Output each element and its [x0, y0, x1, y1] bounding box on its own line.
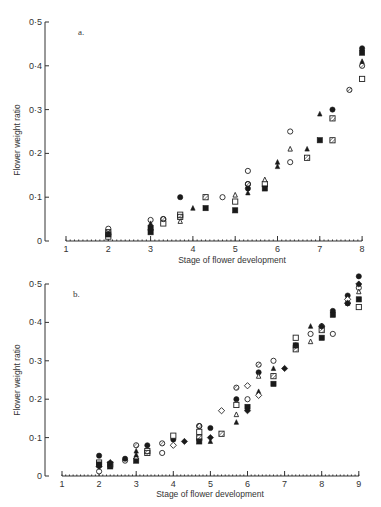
- hatched-square-marker: [106, 230, 111, 235]
- x-axis-label-b: Stage of flower development: [156, 489, 264, 499]
- filled-square-marker: [360, 50, 365, 55]
- filled-triangle-marker: [191, 206, 195, 211]
- y-tick-label: 0: [37, 236, 42, 246]
- filled-square-marker: [262, 186, 267, 191]
- filled-circle-marker: [356, 274, 361, 279]
- hatched-circle-marker: [256, 362, 261, 367]
- open-circle-marker: [288, 129, 293, 134]
- y-tick-label: 0·2: [29, 148, 42, 158]
- filled-square-marker: [203, 206, 208, 211]
- filled-square-marker: [317, 138, 322, 143]
- hatched-square-marker: [330, 116, 335, 121]
- chart-panel-a: 00·10·20·30·40·5 12345678 a. Flower weig…: [12, 17, 365, 265]
- open-square-marker: [360, 76, 365, 81]
- hatched-circle-marker: [347, 87, 352, 92]
- open-circle-marker: [245, 397, 250, 402]
- x-tick-label: 1: [59, 479, 64, 489]
- hatched-circle-marker: [134, 443, 139, 448]
- filled-square-marker: [233, 208, 238, 213]
- x-tick-label: 3: [134, 479, 139, 489]
- filled-triangle-marker: [308, 324, 312, 329]
- x-tick-label: 8: [360, 244, 365, 254]
- y-tick-label: 0·3: [29, 356, 42, 366]
- x-tick-label: 3: [148, 244, 153, 254]
- open-diamond-marker: [170, 442, 176, 448]
- filled-diamond-marker: [281, 365, 287, 371]
- filled-circle-marker: [97, 453, 102, 458]
- x-tick-label: 2: [97, 479, 102, 489]
- filled-circle-marker: [122, 456, 127, 461]
- data-points-b: [96, 274, 362, 474]
- filled-circle-marker: [145, 443, 150, 448]
- open-circle-marker: [160, 450, 165, 455]
- y-tick-label: 0·4: [29, 61, 42, 71]
- filled-triangle-marker: [271, 366, 275, 371]
- x-tick-label: 4: [190, 244, 195, 254]
- hatched-circle-marker: [319, 324, 324, 329]
- hatched-circle-marker: [197, 423, 202, 428]
- y-tick-label: 0·5: [29, 279, 42, 289]
- filled-triangle-marker: [275, 164, 279, 169]
- data-points-a: [106, 46, 365, 240]
- open-circle-marker: [245, 168, 250, 173]
- open-square-marker: [197, 429, 202, 434]
- x-tick-label: 9: [356, 479, 361, 489]
- x-tick-label: 2: [106, 244, 111, 254]
- x-tick-label: 8: [319, 479, 324, 489]
- hatched-square-marker: [219, 431, 224, 436]
- hatched-circle-marker: [160, 441, 165, 446]
- open-triangle-marker: [308, 339, 312, 344]
- hatched-circle-marker: [161, 217, 166, 222]
- hatched-circle-marker: [245, 181, 250, 186]
- y-tick-label: 0·1: [29, 192, 42, 202]
- open-triangle-marker: [263, 177, 267, 182]
- open-triangle-marker: [233, 192, 237, 197]
- filled-circle-marker: [208, 425, 213, 430]
- open-triangle-marker: [288, 146, 292, 151]
- filled-square-marker: [148, 230, 153, 235]
- open-diamond-marker: [244, 383, 250, 389]
- filled-square-marker: [356, 297, 361, 302]
- x-tick-label: 1: [63, 244, 68, 254]
- x-tick-label: 7: [282, 479, 287, 489]
- x-tick-label: 6: [245, 479, 250, 489]
- hatched-square-marker: [330, 138, 335, 143]
- filled-diamond-marker: [181, 438, 187, 444]
- x-tick-label: 4: [171, 479, 176, 489]
- open-circle-marker: [220, 195, 225, 200]
- x-ticks-b: 123456789: [59, 471, 361, 489]
- panel-label-b: b.: [73, 289, 80, 299]
- y-tick-label: 0·2: [29, 394, 42, 404]
- x-axis-label-a: Stage of flower development: [178, 255, 286, 265]
- y-tick-label: 0·5: [29, 17, 42, 27]
- filled-square-marker: [319, 335, 324, 340]
- filled-circle-marker: [178, 195, 183, 200]
- filled-circle-marker: [234, 397, 239, 402]
- x-tick-label: 5: [233, 244, 238, 254]
- filled-circle-marker: [330, 107, 335, 112]
- y-tick-label: 0·4: [29, 317, 42, 327]
- y-axis-label-a: Flower weight ratio: [12, 104, 22, 176]
- chart-panel-b: 00·10·20·30·40·5 123456789 b. Flower wei…: [12, 274, 362, 499]
- hatched-square-marker: [145, 450, 150, 455]
- open-diamond-marker: [218, 408, 224, 414]
- open-circle-marker: [308, 331, 313, 336]
- x-tick-label: 6: [275, 244, 280, 254]
- open-circle-marker: [330, 331, 335, 336]
- panel-label-a: a.: [78, 27, 84, 37]
- hatched-square-marker: [305, 155, 310, 160]
- x-tick-label: 5: [208, 479, 213, 489]
- open-circle-marker: [271, 358, 276, 363]
- filled-square-marker: [330, 312, 335, 317]
- y-ticks-a: 00·10·20·30·40·5: [29, 17, 49, 246]
- open-circle-marker: [288, 160, 293, 165]
- hatched-circle-marker: [234, 385, 239, 390]
- filled-diamond-marker: [207, 434, 213, 440]
- open-square-marker: [171, 433, 176, 438]
- hatched-square-marker: [293, 347, 298, 352]
- filled-triangle-marker: [318, 111, 322, 116]
- figure: 00·10·20·30·40·5 12345678 a. Flower weig…: [0, 0, 381, 507]
- open-square-marker: [233, 199, 238, 204]
- y-tick-label: 0·3: [29, 105, 42, 115]
- hatched-square-marker: [271, 374, 276, 379]
